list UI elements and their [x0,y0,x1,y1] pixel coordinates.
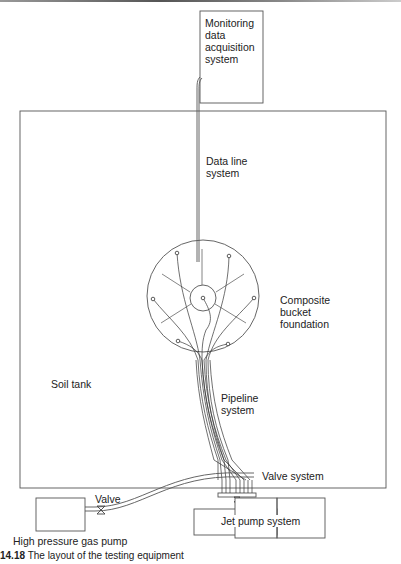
caption-text: The layout of the testing equipment [28,550,184,561]
label-valve: Valve [95,493,121,505]
label-soil-tank: Soil tank [51,378,91,390]
label-jet-pump: Jet pump system [221,515,300,527]
figure-caption: 14.18 The layout of the testing equipmen… [0,550,184,561]
pipelines [153,253,254,480]
label-composite-bucket: Composite bucket foundation [280,294,330,330]
caption-number: 14.18 [0,550,25,561]
label-monitoring: Monitoring data acquisition system [205,17,255,65]
data-line [197,77,200,262]
gas-pump-box [36,498,85,531]
pipe-ends [151,251,256,346]
bucket-spokes [161,249,246,323]
label-pipeline: Pipeline system [221,392,258,416]
label-gas-pump: High pressure gas pump [13,535,127,547]
label-valve-system: Valve system [262,470,324,482]
manifold [218,493,256,497]
equipment-layout-diagram [0,0,401,564]
label-data-line: Data line system [206,155,247,179]
